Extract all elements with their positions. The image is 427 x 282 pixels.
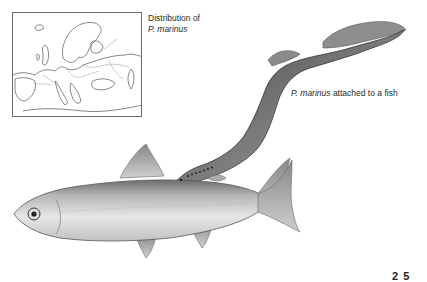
fish-body bbox=[14, 180, 261, 241]
lamprey-eye bbox=[180, 179, 182, 181]
illustration-caption-rest: attached to a fish bbox=[331, 88, 398, 98]
illustration-caption-species: P. marinus bbox=[291, 88, 331, 98]
fish-pupil bbox=[31, 211, 36, 216]
illustration-caption: P. marinus attached to a fish bbox=[291, 88, 398, 99]
page-number: 2 5 bbox=[392, 270, 410, 282]
